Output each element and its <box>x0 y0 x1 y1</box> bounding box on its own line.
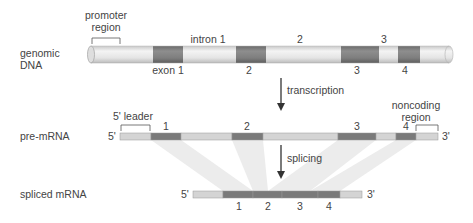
spliced-exon2-label: 2 <box>265 200 271 212</box>
intron3-label: 3 <box>381 33 387 45</box>
spliced-mrna-bar <box>193 191 362 198</box>
genomic-dna-label: genomic DNA <box>20 47 60 71</box>
spliced-5prime-label: 5' <box>181 188 189 200</box>
transcription-arrow <box>277 78 285 111</box>
exon1-label: exon 1 <box>152 64 184 76</box>
promoter-bracket <box>92 38 120 44</box>
pre-exon1-label: 1 <box>163 120 169 132</box>
spliced-mrna-label: spliced mRNA <box>20 188 87 200</box>
splicing-label: splicing <box>287 152 322 164</box>
genomic-dna-label-line2: DNA <box>20 59 60 71</box>
transcription-label: transcription <box>287 84 344 96</box>
intron2-label: 2 <box>297 33 303 45</box>
genomic-dna-label-line1: genomic <box>20 47 60 59</box>
spliced-exon3-label: 3 <box>297 200 303 212</box>
promoter-region-label: promoter region <box>85 9 127 33</box>
pre-mrna-label: pre-mRNA <box>20 130 70 142</box>
exon4-label: 4 <box>402 64 408 76</box>
pre-exon3-label: 3 <box>354 120 360 132</box>
noncoding-bracket <box>416 125 438 131</box>
exon3-label: 3 <box>354 64 360 76</box>
leader-label: 5' leader <box>113 110 153 122</box>
intron1-label: intron 1 <box>190 33 225 45</box>
leader-bracket <box>121 125 150 131</box>
noncoding-label-line1: noncoding <box>392 99 440 111</box>
exon2-label: 2 <box>246 64 252 76</box>
splicing-arrow <box>277 145 285 179</box>
spliced-exon4-label: 4 <box>326 200 332 212</box>
noncoding-region-label: noncoding region <box>392 99 440 123</box>
pre-exon4-label: 4 <box>403 120 409 132</box>
pre-3prime-label: 3' <box>442 130 450 142</box>
spliced-3prime-label: 3' <box>367 188 375 200</box>
pre-5prime-label: 5' <box>108 130 116 142</box>
splicing-bands <box>151 140 416 191</box>
spliced-exon1-label: 1 <box>236 200 242 212</box>
pre-exon2-label: 2 <box>244 120 250 132</box>
pre-mrna-bar <box>120 133 438 140</box>
noncoding-label-line2: region <box>392 111 440 123</box>
gene-expression-diagram: genomic DNA pre-mRNA spliced mRNA promot… <box>0 0 473 223</box>
genomic-dna-cylinder <box>88 46 454 63</box>
promoter-label-line2: region <box>85 21 127 33</box>
promoter-label-line1: promoter <box>85 9 127 21</box>
